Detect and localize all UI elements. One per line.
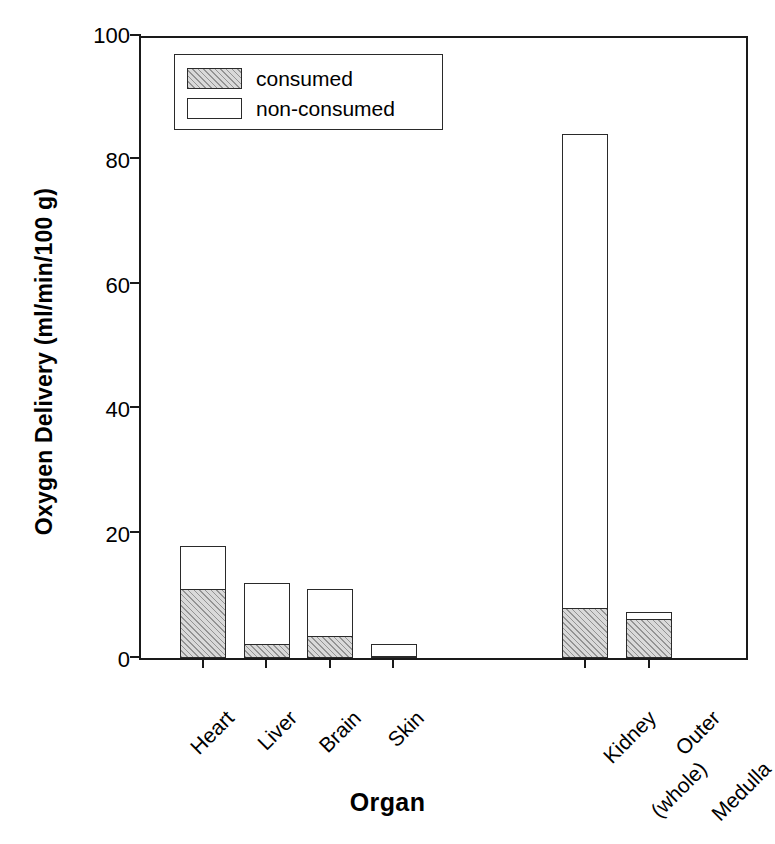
bar-segment-consumed <box>244 644 290 658</box>
bar-skin[interactable] <box>371 644 417 658</box>
bar-segment-consumed <box>307 636 353 658</box>
bar-segment-consumed <box>180 589 226 658</box>
chart-legend: consumed non-consumed <box>174 54 443 130</box>
x-tick-mark-skin <box>392 658 394 668</box>
y-tick-label-100: 100 <box>20 25 130 47</box>
bar-brain[interactable] <box>307 589 353 658</box>
bar-outer-medulla[interactable] <box>626 612 672 658</box>
y-tick-mark-40 <box>130 406 141 408</box>
y-tick-label-60: 60 <box>20 275 130 297</box>
x-tick-mark-heart <box>202 658 204 668</box>
legend-swatch-non-consumed-icon <box>187 98 242 119</box>
x-axis-title: Organ <box>0 788 775 817</box>
bar-segment-consumed <box>371 656 417 658</box>
y-axis-title: Oxygen Delivery (ml/min/100 g) <box>31 142 58 582</box>
bar-segment-non-consumed <box>562 134 608 658</box>
bar-liver[interactable] <box>244 583 290 658</box>
plot-area: consumed non-consumed <box>139 36 748 660</box>
x-tick-mark-kidney <box>584 658 586 668</box>
y-tick-label-40: 40 <box>20 399 130 421</box>
y-tick-mark-20 <box>130 531 141 533</box>
bar-segment-consumed <box>562 608 608 658</box>
y-tick-mark-60 <box>130 282 141 284</box>
y-tick-mark-0 <box>130 656 141 658</box>
x-tick-mark-liver <box>265 658 267 668</box>
bar-kidney-whole[interactable] <box>562 134 608 658</box>
x-tick-mark-outer-medulla <box>648 658 650 668</box>
x-tick-mark-brain <box>329 658 331 668</box>
y-tick-mark-80 <box>130 157 141 159</box>
legend-swatch-consumed-icon <box>187 68 242 89</box>
chart-figure: Oxygen Delivery (ml/min/100 g) 100 80 60… <box>0 0 775 844</box>
bar-segment-consumed <box>626 619 672 658</box>
y-tick-label-80: 80 <box>20 150 130 172</box>
legend-label-non-consumed: non-consumed <box>256 98 395 119</box>
y-tick-mark-100 <box>130 34 141 36</box>
bar-heart[interactable] <box>180 546 226 658</box>
y-tick-label-0: 0 <box>20 649 130 671</box>
x-category-label-line1: Skin <box>355 706 429 780</box>
y-tick-label-20: 20 <box>20 524 130 546</box>
legend-label-consumed: consumed <box>256 68 353 89</box>
legend-item-non-consumed: non-consumed <box>187 95 395 121</box>
legend-item-consumed: consumed <box>187 65 353 91</box>
